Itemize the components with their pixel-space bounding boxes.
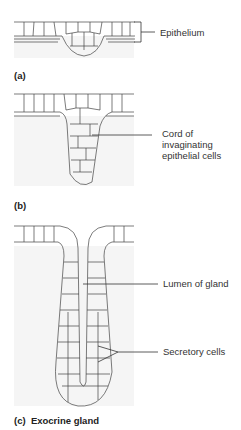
label-cord: Cord of invaginating epithelial cells: [162, 128, 221, 161]
panel-a: Epithelium (a): [0, 0, 241, 90]
label-epithelium: Epithelium: [160, 27, 204, 38]
label-lumen: Lumen of gland: [163, 278, 229, 289]
label-secretory-cells: Secretory cells: [163, 346, 225, 357]
caption-b: (b): [14, 200, 26, 211]
caption-c: (c) Exocrine gland: [14, 415, 99, 426]
caption-a: (a): [14, 70, 26, 81]
panel-c: Lumen of gland Secretory cells (c) Exocr…: [0, 222, 241, 430]
exocrine-gland-illustration: [0, 222, 241, 430]
panel-b: Cord of invaginating epithelial cells: [0, 90, 241, 200]
epithelium-illustration: [0, 0, 241, 90]
